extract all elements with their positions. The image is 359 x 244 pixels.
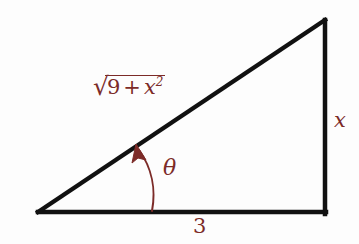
triangle-shape [38,20,326,214]
hypotenuse-label: √9+x2 [93,74,165,99]
radicand-exponent: 2 [156,75,164,89]
radicand-group: 9+x2 [105,75,165,98]
radicand-constant: 9 [107,75,120,99]
figure-canvas: √9+x2 θ 3 x [0,0,359,244]
triangle-hypotenuse-line [38,20,325,212]
angle-arrow [132,144,153,211]
theta-angle-label: θ [163,157,176,179]
triangle-diagram-svg [0,0,359,244]
radicand-variable: x [144,75,156,99]
opposite-length-label: x [334,110,346,131]
plus-operator: + [120,75,144,99]
base-length-label: 3 [193,216,206,237]
